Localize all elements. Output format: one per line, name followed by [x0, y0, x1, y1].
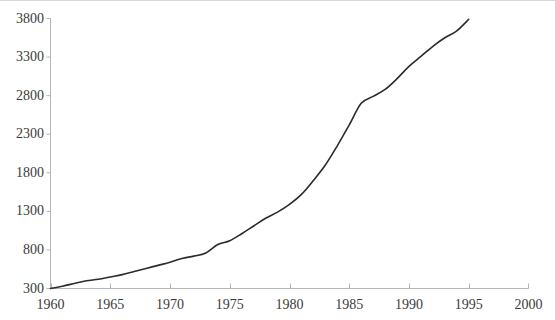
line-chart: 300800130018002300280033003800 196019651… [0, 0, 555, 320]
data-series-line [51, 19, 469, 288]
x-tick-marks [52, 284, 470, 289]
plot-area [0, 0, 555, 320]
y-tick-marks [47, 19, 51, 289]
